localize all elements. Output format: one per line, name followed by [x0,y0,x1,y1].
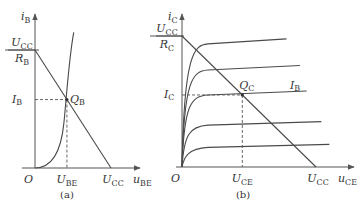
ucc-tick-label-a: UCC [102,173,123,188]
q-point-b [65,98,68,101]
origin-a-label: O [24,173,33,186]
load-line-b [182,36,316,167]
x-axis-b-label: uCE [338,172,357,187]
q-point-c [241,93,244,96]
output-characteristic-curve [182,39,287,167]
panel-a-caption: (a) [60,189,74,200]
ucc-over-rb-label-denominator: RB [14,52,29,67]
uce-tick-label: UCE [232,172,253,187]
ube-tick-label: UBE [56,173,77,188]
panel-a: QBiBuBEOUBEUCCIBUCCRB(a) [5,10,152,200]
origin-b-label: O [171,172,180,185]
ucc-over-rc-label-denominator: RC [159,38,174,53]
bjt-load-line-figure: QBiBuBEOUBEUCCIBUCCRB(a) QCIBiCuCEOUCEUC… [0,0,360,204]
ib-curve-label: IB [289,79,300,94]
y-axis-b-label: iC [168,10,178,25]
q-point-b-label: QB [70,93,85,108]
ucc-tick-label-b: UCC [307,172,328,187]
panel-b-caption: (b) [236,189,250,200]
ucc-over-rb-label-numerator: UCC [11,36,32,51]
y-axis-a-label: iB [21,10,31,25]
ucc-over-rb-label: UCCRB [5,36,39,67]
ic-tick-label: IC [163,88,174,103]
ib-tick-label: IB [11,93,22,108]
ucc-over-rc-label: UCCRC [150,22,184,53]
load-line-a [35,50,111,168]
q-point-c-label: QC [239,79,254,94]
output-characteristic-curve [182,91,307,167]
output-characteristic-curve [182,122,321,167]
output-characteristic-curve [182,144,329,167]
panel-b: QCIBiCuCEOUCEUCCICUCCRC(b) [150,10,357,200]
x-axis-a-label: uBE [133,173,152,188]
